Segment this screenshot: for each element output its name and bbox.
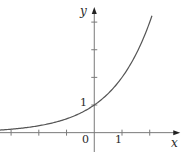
x-axis-label: x	[171, 136, 178, 150]
curve-y-equals-2-pow-x	[0, 16, 152, 130]
origin-label: 0	[82, 133, 89, 146]
axes	[0, 7, 180, 152]
x-axis-arrow	[173, 130, 180, 135]
y-axis-arrow	[92, 7, 97, 14]
ticks	[11, 22, 150, 136]
y-tick-label-1: 1	[80, 96, 87, 109]
y-axis-label: y	[79, 4, 87, 18]
x-tick-label-1: 1	[115, 133, 122, 146]
exponential-chart: 0 1 1 x y	[0, 0, 183, 152]
